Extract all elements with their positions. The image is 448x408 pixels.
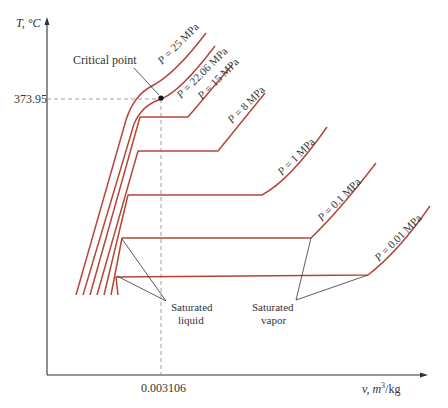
saturated-liquid-label-line1: Saturated xyxy=(171,301,213,313)
t-v-diagram: T, °C v, m3/kg 373.95 0.003106 Critical … xyxy=(0,0,448,408)
x-axis-arrow-icon xyxy=(420,373,428,378)
critical-point-label: Critical point xyxy=(73,53,137,67)
critical-volume-tick: 0.003106 xyxy=(141,381,186,395)
saturated-vapor-label-line1: Saturated xyxy=(252,301,294,313)
saturated-liquid-leader-lower xyxy=(117,276,166,301)
axes xyxy=(45,17,429,378)
saturated-liquid-leader-upper xyxy=(122,239,166,301)
critical-temperature-tick: 373.95 xyxy=(14,92,47,106)
x-axis-label-tail: /kg xyxy=(385,382,400,396)
isobar-label-25mpa: P = 25 MPa xyxy=(154,20,201,67)
saturated-vapor-label-line2: vapor xyxy=(261,314,286,326)
critical-point-leader xyxy=(134,68,159,95)
y-axis-label: T, °C xyxy=(16,16,42,30)
isobar-label-8mpa: P = 8 MPa xyxy=(224,83,267,126)
y-axis-arrow-icon xyxy=(45,17,50,25)
saturated-vapor-leader-upper xyxy=(296,238,311,300)
saturated-liquid-label-line2: liquid xyxy=(178,314,204,326)
isobar-8mpa xyxy=(97,93,265,295)
isobar-label-1mpa: P = 1 MPa xyxy=(274,135,317,178)
critical-point-marker xyxy=(158,95,163,100)
isobar-label-0-01mpa: P = 0.01 MPa xyxy=(371,212,424,265)
isobar-label-0-1mpa: P = 0.1 MPa xyxy=(314,175,363,224)
x-axis-label-main: v, m xyxy=(362,382,381,396)
x-axis-label: v, m3/kg xyxy=(362,381,400,396)
saturated-vapor-leader-lower xyxy=(296,275,368,300)
